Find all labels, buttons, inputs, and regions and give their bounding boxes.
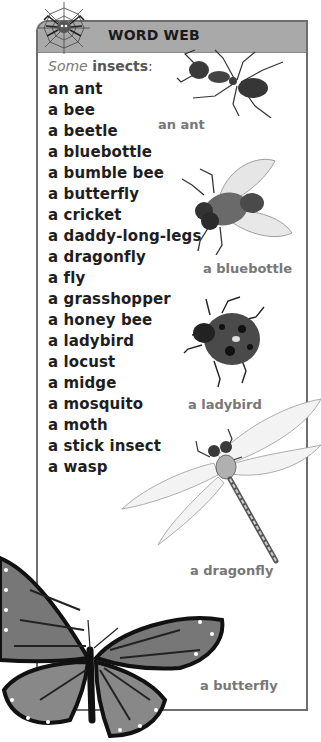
list-item: a midge (48, 373, 201, 394)
list-item: a fly (48, 268, 201, 289)
spider-web-icon (34, 0, 94, 58)
caption-ant: an ant (158, 117, 205, 132)
list-item: a bluebottle (48, 142, 201, 163)
header-title: WORD WEB (108, 27, 200, 43)
list-item: a locust (48, 352, 201, 373)
caption-butterfly: a butterfly (200, 678, 278, 693)
intro-keyword: insects (92, 58, 148, 74)
ant-illustration (175, 48, 295, 118)
ladybird-illustration (180, 293, 270, 388)
list-item: a ladybird (48, 331, 201, 352)
butterfly-illustration (0, 550, 225, 740)
list-item: a cricket (48, 205, 201, 226)
list-item: a butterfly (48, 184, 201, 205)
bluebottle-illustration (180, 155, 295, 255)
intro-text: Some insects: (48, 58, 153, 74)
list-item: a honey bee (48, 310, 201, 331)
intro-suffix: : (148, 58, 153, 74)
caption-bluebottle: a bluebottle (203, 261, 292, 276)
intro-prefix: Some (48, 58, 88, 74)
dragonfly-illustration (118, 395, 321, 575)
list-item: a grasshopper (48, 289, 201, 310)
list-item: a daddy-long-legs (48, 226, 201, 247)
list-item: a bumble bee (48, 163, 201, 184)
list-item: a dragonfly (48, 247, 201, 268)
